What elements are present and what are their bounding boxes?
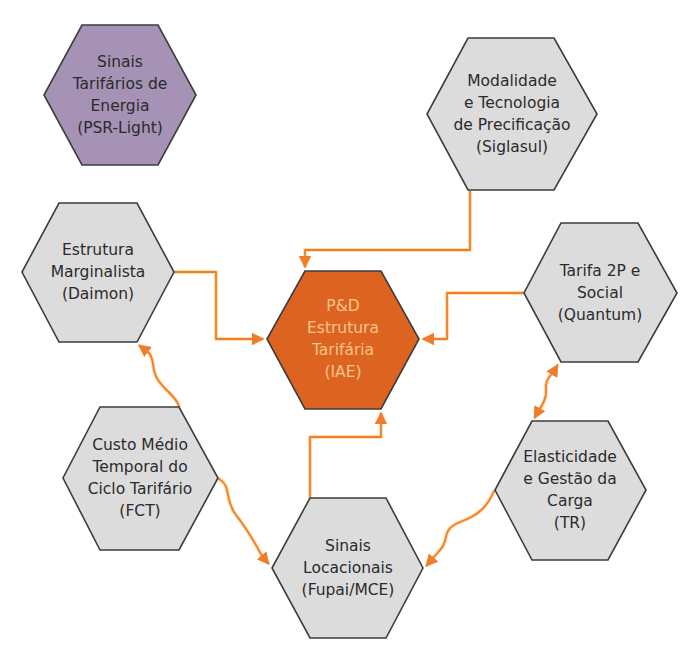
node-label-line: (Fupai/MCE) [302,581,395,599]
node-label-line: Custo Médio [92,436,188,454]
hexagon-shape [427,38,597,190]
node-label-line: Energia [91,97,150,115]
node-label-line: Locacionais [303,559,393,577]
connector-tr-to-fupai-mce [427,491,494,565]
node-quantum: Tarifa 2P eSocial(Quantum) [524,223,677,362]
node-label-line: Tarifários de [72,75,168,93]
connector-siglasul-to-iae [305,191,470,266]
node-label-line: Estrutura [62,241,134,259]
node-label-line: P&D [326,297,359,315]
connector-line [140,346,179,406]
connector-glow [424,293,523,339]
diagram-svg: SinaisTarifários deEnergia(PSR-Light)Mod… [0,0,692,667]
connector-glow [310,414,381,497]
node-label-line: (TR) [554,514,586,532]
node-label-line: Sinais [325,537,371,555]
node-label-line: Tarifária [311,341,374,359]
node-label-line: Temporal do [91,458,187,476]
node-label-line: Marginalista [51,263,146,281]
node-psr-light: SinaisTarifários deEnergia(PSR-Light) [44,25,196,165]
node-label-line: Estrutura [307,319,379,337]
connector-glow [175,272,262,339]
node-label-line: (Siglasul) [476,138,548,156]
node-fct: Custo MédioTemporal doCiclo Tarifário(FC… [63,407,218,550]
node-label-line: Ciclo Tarifário [88,480,193,498]
node-label-line: Tarifa 2P e [559,262,641,280]
hexagon-shape [267,271,419,409]
connector-line [310,414,381,497]
node-tr: Elasticidadee Gestão daCarga(TR) [495,421,646,560]
node-label-line: (IAE) [324,363,361,381]
hexagon-shape [44,25,196,165]
connector-glow [219,479,268,563]
hexagon-shape [63,407,218,550]
node-label-line: (Quantum) [558,306,642,324]
node-daimon: EstruturaMarginalista(Daimon) [22,203,174,342]
node-label-line: Sinais [97,53,143,71]
node-label-line: Social [577,284,623,302]
connector-line [424,293,523,339]
node-label-line: e Tecnologia [464,94,560,112]
node-label-line: Modalidade [467,72,557,90]
diagram-canvas: SinaisTarifários deEnergia(PSR-Light)Mod… [0,0,692,667]
connector-quantum-to-tr [535,366,557,417]
node-siglasul: Modalidadee Tecnologiade Precificação(Si… [427,38,597,190]
node-label-line: Elasticidade [523,448,617,466]
connector-line [427,491,494,565]
node-label-line: (PSR-Light) [77,119,163,137]
connector-line [305,191,470,266]
node-layer: SinaisTarifários deEnergia(PSR-Light)Mod… [22,25,677,638]
connector-glow [305,191,470,266]
connector-line [175,272,262,339]
node-label-line: Carga [547,492,593,510]
node-label-line: e Gestão da [523,470,616,488]
node-fupai-mce: SinaisLocacionais(Fupai/MCE) [272,498,423,638]
connector-fct-to-daimon [140,346,179,406]
node-label-line: (Daimon) [62,285,134,303]
connector-fct-to-fupai-mce [219,479,268,563]
hexagon-shape [495,421,646,560]
node-label-line: de Precificação [453,116,570,134]
connector-quantum-to-iae [424,293,523,339]
node-iae: P&DEstruturaTarifária(IAE) [267,271,419,409]
connector-fupai-mce-to-iae [310,414,381,497]
node-label-line: (FCT) [119,502,160,520]
connector-daimon-to-iae [175,272,262,339]
